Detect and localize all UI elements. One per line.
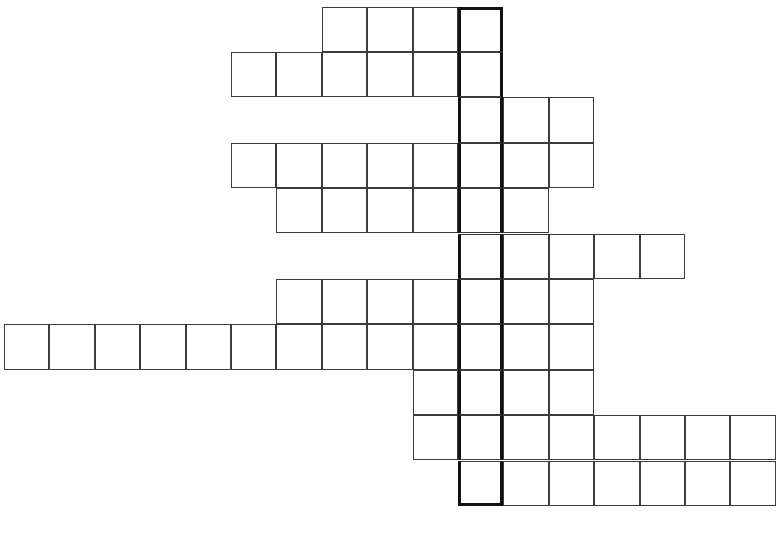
crossword-cell[interactable] xyxy=(231,52,276,97)
crossword-cell[interactable] xyxy=(549,415,594,460)
crossword-cell-letter xyxy=(323,325,366,368)
crossword-cell[interactable] xyxy=(458,415,503,460)
crossword-cell[interactable] xyxy=(458,97,503,142)
crossword-cell[interactable] xyxy=(413,7,458,52)
crossword-cell-letter xyxy=(461,280,500,323)
crossword-cell[interactable] xyxy=(276,324,321,369)
crossword-cell[interactable] xyxy=(231,324,276,369)
crossword-cell[interactable] xyxy=(140,324,185,369)
crossword-cell[interactable] xyxy=(685,461,730,506)
crossword-cell-letter xyxy=(323,8,366,51)
crossword-cell[interactable] xyxy=(322,7,367,52)
crossword-cell[interactable] xyxy=(549,143,594,188)
crossword-cell[interactable] xyxy=(458,52,503,97)
crossword-cell[interactable] xyxy=(4,324,49,369)
crossword-cell[interactable] xyxy=(458,7,503,52)
crossword-cell-letter xyxy=(461,416,500,459)
crossword-cell[interactable] xyxy=(730,415,775,460)
crossword-cell[interactable] xyxy=(549,324,594,369)
crossword-cell[interactable] xyxy=(503,234,548,279)
crossword-cell-letter xyxy=(5,325,48,368)
crossword-cell[interactable] xyxy=(730,461,775,506)
crossword-cell[interactable] xyxy=(413,188,458,233)
crossword-cell[interactable] xyxy=(549,279,594,324)
crossword-cell-letter xyxy=(504,144,547,187)
crossword-cell-letter xyxy=(414,189,457,232)
crossword-cell[interactable] xyxy=(503,188,548,233)
crossword-cell[interactable] xyxy=(503,324,548,369)
crossword-cell[interactable] xyxy=(458,188,503,233)
crossword-cell-letter xyxy=(461,144,500,187)
crossword-cell[interactable] xyxy=(413,324,458,369)
crossword-cell-letter xyxy=(141,325,184,368)
crossword-cell[interactable] xyxy=(503,279,548,324)
crossword-cell[interactable] xyxy=(458,143,503,188)
crossword-cell[interactable] xyxy=(503,415,548,460)
crossword-cell-letter xyxy=(232,144,275,187)
crossword-cell-letter xyxy=(368,144,411,187)
crossword-cell[interactable] xyxy=(640,415,685,460)
crossword-cell-letter xyxy=(461,10,500,51)
crossword-cell-letter xyxy=(504,325,547,368)
crossword-cell[interactable] xyxy=(594,234,639,279)
crossword-cell[interactable] xyxy=(367,324,412,369)
crossword-cell[interactable] xyxy=(549,234,594,279)
crossword-cell-letter xyxy=(414,53,457,96)
crossword-cell[interactable] xyxy=(367,52,412,97)
crossword-cell[interactable] xyxy=(231,143,276,188)
crossword-cell[interactable] xyxy=(413,415,458,460)
crossword-cell[interactable] xyxy=(186,324,231,369)
crossword-cell[interactable] xyxy=(367,279,412,324)
crossword-cell[interactable] xyxy=(458,370,503,415)
crossword-cell[interactable] xyxy=(413,279,458,324)
crossword-cell[interactable] xyxy=(322,324,367,369)
crossword-cell-letter xyxy=(550,416,593,459)
crossword-cell[interactable] xyxy=(276,279,321,324)
crossword-cell-letter xyxy=(504,462,547,505)
crossword-cell[interactable] xyxy=(549,461,594,506)
crossword-cell[interactable] xyxy=(322,52,367,97)
crossword-cell[interactable] xyxy=(367,143,412,188)
crossword-cell-letter xyxy=(277,189,320,232)
crossword-cell-letter xyxy=(731,416,774,459)
crossword-cell[interactable] xyxy=(276,188,321,233)
crossword-cell-letter xyxy=(731,462,774,505)
crossword-cell[interactable] xyxy=(594,415,639,460)
crossword-cell[interactable] xyxy=(367,7,412,52)
crossword-cell[interactable] xyxy=(549,370,594,415)
crossword-cell[interactable] xyxy=(458,461,503,506)
crossword-cell[interactable] xyxy=(685,415,730,460)
crossword-cell[interactable] xyxy=(322,143,367,188)
crossword-cell-letter xyxy=(461,235,500,278)
crossword-cell[interactable] xyxy=(413,52,458,97)
crossword-cell[interactable] xyxy=(458,279,503,324)
crossword-cell[interactable] xyxy=(640,234,685,279)
crossword-cell[interactable] xyxy=(276,143,321,188)
crossword-cell[interactable] xyxy=(458,324,503,369)
crossword-cell[interactable] xyxy=(322,188,367,233)
crossword-cell[interactable] xyxy=(413,143,458,188)
crossword-cell[interactable] xyxy=(367,188,412,233)
crossword-cell[interactable] xyxy=(503,461,548,506)
crossword-cell[interactable] xyxy=(276,52,321,97)
crossword-cell-letter xyxy=(414,280,457,323)
crossword-cell[interactable] xyxy=(413,370,458,415)
crossword-grid[interactable] xyxy=(0,0,780,534)
crossword-cell-letter xyxy=(461,462,500,503)
crossword-cell[interactable] xyxy=(549,97,594,142)
crossword-cell[interactable] xyxy=(95,324,140,369)
crossword-cell[interactable] xyxy=(49,324,94,369)
crossword-cell[interactable] xyxy=(503,143,548,188)
crossword-cell-letter xyxy=(187,325,230,368)
crossword-cell[interactable] xyxy=(503,97,548,142)
crossword-cell-letter xyxy=(461,98,500,141)
crossword-cell-letter xyxy=(550,280,593,323)
crossword-cell-letter xyxy=(50,325,93,368)
crossword-cell[interactable] xyxy=(322,279,367,324)
crossword-cell[interactable] xyxy=(640,461,685,506)
crossword-cell[interactable] xyxy=(594,461,639,506)
crossword-cell-letter xyxy=(641,416,684,459)
crossword-cell-letter xyxy=(414,416,457,459)
crossword-cell[interactable] xyxy=(458,234,503,279)
crossword-cell[interactable] xyxy=(503,370,548,415)
